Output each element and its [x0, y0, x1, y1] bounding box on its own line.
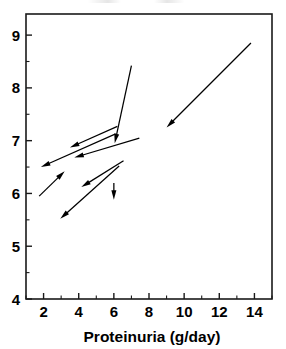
arrow-shaft — [88, 161, 123, 183]
chart-figure: 456789 2468101214 Proteinuria (g/day) — [0, 0, 286, 349]
arrow-head — [70, 141, 80, 147]
x-tick-label: 4 — [75, 303, 84, 320]
x-tick-label: 8 — [145, 303, 153, 320]
plot-frame — [26, 14, 272, 299]
y-tick-label: 9 — [12, 27, 20, 44]
x-axis-tick-labels: 2468101214 — [39, 303, 263, 320]
vector-arrow — [81, 161, 123, 187]
vector-arrow — [114, 66, 131, 144]
vector-arrow — [41, 134, 116, 167]
arrow-shaft — [82, 138, 139, 155]
y-tick-label: 6 — [12, 185, 20, 202]
arrow-shaft — [66, 166, 119, 213]
x-tick-label: 14 — [246, 303, 263, 320]
vector-arrow — [60, 166, 119, 219]
y-axis-tick-labels: 456789 — [12, 27, 21, 308]
y-tick-label: 7 — [12, 132, 20, 149]
y-tick-label: 4 — [12, 291, 21, 308]
vector-arrow — [167, 43, 251, 127]
arrow-head — [74, 152, 84, 157]
vector-arrow — [111, 183, 116, 200]
arrow-head — [81, 180, 90, 187]
arrow-head — [41, 161, 51, 167]
arrow-shaft — [39, 177, 59, 196]
x-tick-label: 2 — [39, 303, 47, 320]
proteinuria-vector-plot: 456789 2468101214 Proteinuria (g/day) — [0, 0, 286, 349]
arrow-head — [114, 133, 119, 143]
arrow-series — [39, 43, 251, 219]
x-axis-title: Proteinuria (g/day) — [84, 328, 221, 345]
vector-arrow — [39, 171, 64, 196]
vector-arrow — [70, 126, 117, 147]
arrow-head — [111, 190, 116, 200]
y-tick-label: 8 — [12, 79, 20, 96]
x-tick-label: 12 — [211, 303, 228, 320]
x-tick-label: 10 — [176, 303, 193, 320]
axis-ticks — [26, 35, 272, 299]
x-tick-label: 6 — [110, 303, 118, 320]
arrow-shaft — [172, 43, 251, 122]
arrow-shaft — [116, 66, 131, 136]
y-tick-label: 5 — [12, 238, 20, 255]
